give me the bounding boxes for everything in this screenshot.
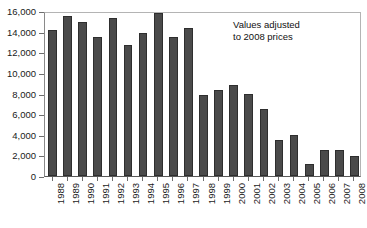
x-tick-mark	[172, 177, 173, 181]
x-tick-mark	[203, 177, 204, 181]
plot-area	[44, 12, 361, 177]
x-tick-label: 2002	[267, 183, 277, 204]
x-tick-label: 1997	[191, 183, 201, 204]
bar-chart: 02,0004,0006,0008,00010,00012,00014,0001…	[0, 0, 367, 228]
bar	[260, 109, 269, 176]
x-tick-mark	[353, 177, 354, 181]
bar	[199, 95, 208, 176]
x-tick-mark	[293, 177, 294, 181]
x-tick-label: 1996	[176, 183, 186, 204]
x-tick-label: 1994	[146, 183, 156, 204]
x-tick-label: 2007	[342, 183, 352, 204]
x-tick-mark	[278, 177, 279, 181]
x-tick-mark	[52, 177, 53, 181]
y-tick-label: 10,000	[7, 69, 36, 79]
x-tick-label: 2003	[282, 183, 292, 204]
bar	[290, 135, 299, 176]
bar	[109, 18, 118, 176]
x-tick-label: 2001	[252, 183, 262, 204]
x-tick-mark	[187, 177, 188, 181]
x-tick-label: 2008	[357, 183, 367, 204]
x-tick-mark	[308, 177, 309, 181]
x-tick-mark	[248, 177, 249, 181]
bar	[275, 140, 284, 176]
x-tick-mark	[263, 177, 264, 181]
x-tick-label: 1988	[56, 183, 66, 204]
y-tick-label: 12,000	[7, 49, 36, 59]
x-tick-mark	[157, 177, 158, 181]
bar	[78, 22, 87, 176]
x-tick-mark	[323, 177, 324, 181]
bar	[169, 37, 178, 176]
x-tick-mark	[67, 177, 68, 181]
y-tick-label: 14,000	[7, 28, 36, 38]
x-tick-label: 2006	[327, 183, 337, 204]
x-tick-mark	[97, 177, 98, 181]
x-tick-label: 1998	[207, 183, 217, 204]
bar	[154, 13, 163, 176]
y-axis: 02,0004,0006,0008,00010,00012,00014,0001…	[0, 0, 41, 228]
x-tick-label: 2004	[297, 183, 307, 204]
x-tick-label: 1991	[101, 183, 111, 204]
bar	[214, 90, 223, 176]
y-tick-label: 8,000	[12, 90, 36, 100]
bar	[184, 28, 193, 177]
y-tick-label: 16,000	[7, 7, 36, 17]
bar	[229, 85, 238, 176]
x-tick-label: 2005	[312, 183, 322, 204]
bar	[139, 33, 148, 176]
x-tick-label: 1995	[161, 183, 171, 204]
x-tick-label: 2000	[237, 183, 247, 204]
x-tick-label: 1999	[222, 183, 232, 204]
x-tick-label: 1989	[71, 183, 81, 204]
x-tick-mark	[218, 177, 219, 181]
x-tick-mark	[338, 177, 339, 181]
bar	[335, 150, 344, 176]
x-tick-mark	[112, 177, 113, 181]
bar	[63, 16, 72, 176]
x-tick-mark	[127, 177, 128, 181]
bar	[350, 156, 359, 176]
y-tick-label: 0	[31, 172, 36, 182]
x-tick-label: 1993	[131, 183, 141, 204]
bar	[124, 45, 133, 176]
x-tick-mark	[142, 177, 143, 181]
y-tick-label: 6,000	[12, 110, 36, 120]
x-tick-label: 1990	[86, 183, 96, 204]
x-axis: 1988198919901991199219931994199519961997…	[44, 177, 361, 228]
x-tick-label: 1992	[116, 183, 126, 204]
bar	[320, 150, 329, 176]
bar	[48, 30, 57, 176]
chart-annotation: Values adjusted to 2008 prices	[233, 19, 300, 43]
bar	[305, 164, 314, 176]
y-tick-label: 4,000	[12, 131, 36, 141]
bar	[93, 37, 102, 176]
y-tick-label: 2,000	[12, 152, 36, 162]
x-tick-mark	[82, 177, 83, 181]
bar	[244, 94, 253, 177]
x-tick-mark	[233, 177, 234, 181]
